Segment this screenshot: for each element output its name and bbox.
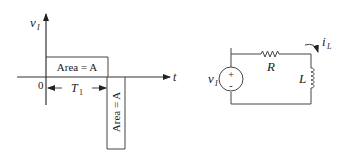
source-plus: +: [228, 69, 234, 80]
resistor-label: R: [266, 59, 275, 74]
resistor: [261, 51, 279, 57]
positive-pulse-label: Area = A: [57, 61, 97, 73]
source-label-subscript: I: [214, 79, 218, 88]
x-axis-label: t: [173, 70, 177, 84]
waveform-plot: v I t 0 Area = A Area = A T 1: [17, 14, 177, 149]
figure: v I t 0 Area = A Area = A T 1 + -: [0, 0, 342, 160]
rl-circuit: + - v I R L i L: [208, 34, 332, 104]
inductor-label: L: [298, 71, 306, 86]
duration-label-subscript: 1: [79, 88, 83, 97]
source-label: v: [208, 71, 214, 86]
inductor: [311, 68, 314, 88]
current-label-subscript: L: [326, 42, 332, 51]
current-arrow: [305, 44, 318, 52]
source-minus: -: [229, 80, 232, 91]
duration-label: T: [71, 81, 79, 95]
negative-pulse-label: Area = A: [110, 92, 122, 132]
current-label: i: [322, 34, 326, 49]
wire-top-left: [231, 48, 261, 54]
positive-pulse-label-text: Area = A: [57, 61, 97, 73]
y-axis-label: v: [30, 15, 36, 30]
wire-right-bottom: [231, 88, 311, 104]
wire-top-right: [279, 54, 311, 68]
origin-label: 0: [38, 79, 44, 91]
y-axis-label-subscript: I: [36, 23, 40, 32]
